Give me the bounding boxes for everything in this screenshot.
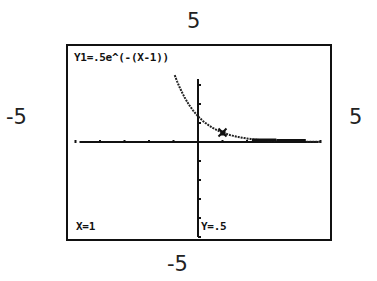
- axes: [76, 79, 321, 237]
- function-label: Y1=.5e^(-(X-1)): [74, 52, 169, 63]
- trace-cursor-icon: [219, 129, 227, 137]
- window-xmin-label: -5: [6, 107, 27, 128]
- window-xmax-label: 5: [349, 107, 362, 128]
- graph-plot: [68, 46, 330, 239]
- cursor-x-value: X=1: [76, 221, 95, 232]
- cursor-y-value: Y=.5: [201, 221, 226, 232]
- calculator-graph-screen: Y1=.5e^(-(X-1)) X=1 Y=.5: [66, 44, 332, 241]
- window-ymax-label: 5: [187, 11, 200, 32]
- function-curve: [175, 75, 321, 142]
- window-ymin-label: -5: [167, 254, 188, 275]
